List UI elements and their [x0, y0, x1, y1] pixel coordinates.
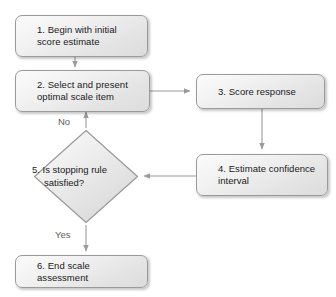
node-step2[interactable]: 2. Select and present optimal scale item — [15, 70, 150, 112]
edge-label-no: No — [58, 116, 70, 127]
diamond-shape — [32, 128, 140, 225]
node-step2-label: 2. Select and present optimal scale item — [25, 79, 143, 103]
edge-label-yes: Yes — [55, 229, 71, 240]
node-step5[interactable]: 5. Is stopping rule satisfied? — [32, 128, 140, 225]
node-step4-label: 4. Estimate confidence interval — [206, 163, 321, 187]
node-step4[interactable]: 4. Estimate confidence interval — [196, 154, 328, 196]
node-step1-label: 1. Begin with initial score estimate — [25, 24, 141, 48]
node-step3[interactable]: 3. Score response — [196, 74, 325, 109]
node-step1[interactable]: 1. Begin with initial score estimate — [15, 15, 148, 57]
node-step3-label: 3. Score response — [206, 86, 296, 98]
flowchart-canvas: 1. Begin with initial score estimate 2. … — [0, 0, 336, 297]
node-step6[interactable]: 6. End scale assessment — [15, 255, 148, 288]
node-step6-label: 6. End scale assessment — [25, 260, 141, 284]
